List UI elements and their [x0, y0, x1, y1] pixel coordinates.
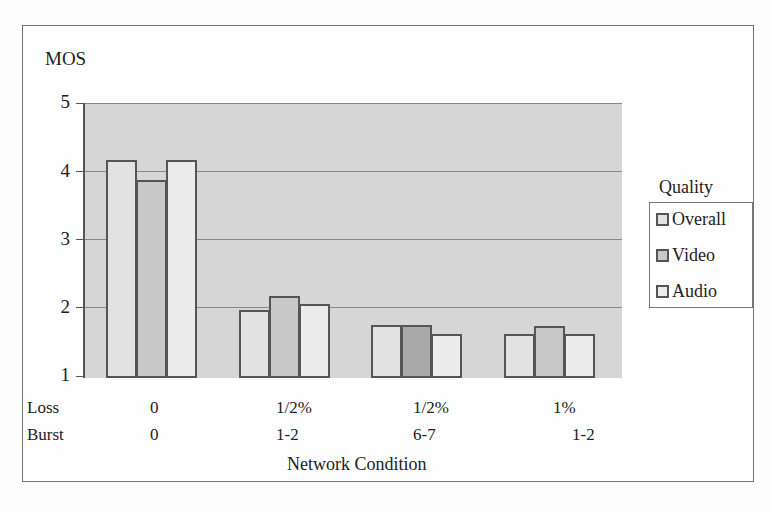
y-tick-label-4: 4: [54, 160, 70, 182]
legend-item-overall: Overall: [656, 209, 726, 230]
y-tick-mark: [76, 307, 83, 308]
bar-audio: [431, 334, 462, 378]
bar-overall: [106, 160, 137, 378]
legend-item-audio: Audio: [656, 281, 717, 302]
bar-video: [269, 296, 300, 378]
bar-audio: [299, 304, 330, 378]
loss-value: 1%: [553, 398, 576, 418]
loss-value: 0: [150, 398, 159, 418]
bar-overall: [371, 325, 402, 378]
y-tick-mark: [76, 239, 83, 240]
bar-overall: [504, 334, 535, 378]
plot-area: [83, 103, 622, 378]
burst-value: 1-2: [276, 425, 299, 445]
legend-label: Audio: [672, 281, 717, 302]
y-tick-label-2: 2: [54, 296, 70, 318]
bar-overall: [239, 310, 270, 378]
y-tick-label-3: 3: [54, 228, 70, 250]
legend-label: Video: [672, 245, 715, 266]
burst-row-label: Burst: [27, 425, 64, 445]
bar-video: [136, 180, 167, 378]
loss-value: 1/2%: [276, 398, 312, 418]
legend: Overall Video Audio: [649, 202, 753, 308]
bar-audio: [564, 334, 595, 378]
legend-label: Overall: [672, 209, 726, 230]
y-tick-mark: [76, 376, 83, 377]
burst-value: 0: [150, 425, 159, 445]
bar-video: [401, 325, 432, 378]
bar-video: [534, 326, 565, 378]
x-axis-title: Network Condition: [287, 454, 427, 475]
burst-value: 6-7: [413, 425, 436, 445]
y-tick-mark: [76, 171, 83, 172]
y-tick-mark: [76, 103, 83, 104]
legend-title: Quality: [659, 177, 713, 198]
gridline: [85, 103, 622, 104]
bar-audio: [166, 160, 197, 378]
swatch-icon: [656, 249, 669, 262]
swatch-icon: [656, 285, 669, 298]
y-tick-label-5: 5: [54, 91, 70, 113]
y-tick-label-1: 1: [54, 364, 70, 386]
loss-row-label: Loss: [27, 398, 59, 418]
swatch-icon: [656, 213, 669, 226]
y-axis-title: MOS: [45, 48, 86, 70]
burst-value: 1-2: [572, 425, 595, 445]
loss-value: 1/2%: [413, 398, 449, 418]
legend-item-video: Video: [656, 245, 715, 266]
